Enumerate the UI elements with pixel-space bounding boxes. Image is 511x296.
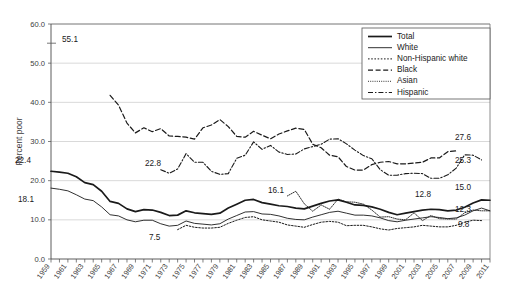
x-tick-label: 1979 xyxy=(204,262,221,281)
data-label-12-3: 12.3 xyxy=(455,205,471,214)
x-tick-label: 1961 xyxy=(52,262,69,281)
x-tick-label: 1991 xyxy=(305,262,322,281)
x-tick-label: 1983 xyxy=(237,262,254,281)
series-line-non-hispanic-white xyxy=(178,217,482,230)
data-label-16-1: 16.1 xyxy=(268,186,284,195)
y-tick-label: 60.0 xyxy=(30,20,45,29)
legend-label-black: Black xyxy=(397,65,418,74)
x-tick-label: 2001 xyxy=(389,262,406,281)
x-tick-label: 1999 xyxy=(373,262,390,281)
y-tick-label: 50.0 xyxy=(30,59,45,68)
data-label-55-1: 55.1 xyxy=(62,35,78,44)
data-label-9-8: 9.8 xyxy=(458,220,470,229)
x-tick-label: 1987 xyxy=(271,262,288,281)
x-tick-label: 1981 xyxy=(221,262,238,281)
y-tick-label: 20.0 xyxy=(30,176,45,185)
legend-label-white: White xyxy=(397,43,418,52)
x-tick-label: 1959 xyxy=(35,262,52,281)
x-tick-label: 2007 xyxy=(440,262,457,281)
data-label-22-8: 22.8 xyxy=(145,159,161,168)
x-tick-label: 1975 xyxy=(170,262,187,281)
x-tick-label: 1977 xyxy=(187,262,204,281)
x-tick-label: 1973 xyxy=(153,262,170,281)
x-tick-label: 1989 xyxy=(288,262,305,281)
data-label-25-3: 25.3 xyxy=(455,156,471,165)
legend-label-asian: Asian xyxy=(397,76,418,85)
x-tick-label: 2005 xyxy=(423,262,440,281)
x-tick-label: 1965 xyxy=(85,262,102,281)
x-tick-label: 1963 xyxy=(69,262,86,281)
data-label-27-6: 27.6 xyxy=(455,133,471,142)
x-tick-label: 1971 xyxy=(136,262,153,281)
x-tick-label: 1997 xyxy=(356,262,373,281)
x-tick-label: 2009 xyxy=(457,262,474,281)
data-label-18-1: 18.1 xyxy=(18,195,34,204)
x-tick-label: 1993 xyxy=(322,262,339,281)
y-tick-label: 40.0 xyxy=(30,98,45,107)
x-tick-label: 2011 xyxy=(474,262,490,280)
y-tick-label: 10.0 xyxy=(30,215,45,224)
data-label-15-0: 15.0 xyxy=(455,183,471,192)
x-tick-label: 1985 xyxy=(254,262,271,281)
series-line-black xyxy=(110,95,456,170)
data-label-12-8: 12.8 xyxy=(415,190,431,199)
x-tick-label: 2003 xyxy=(406,262,423,281)
poverty-rate-chart: 0.010.020.030.040.050.060.0Percent poor1… xyxy=(0,0,511,296)
legend-label-non-hispanic-white: Non-Hispanic white xyxy=(397,54,468,63)
x-tick-label: 1969 xyxy=(119,262,136,281)
legend-label-hispanic: Hispanic xyxy=(397,88,428,97)
data-label-22-4: 22.4 xyxy=(15,156,31,165)
legend-label-total: Total xyxy=(397,32,414,41)
data-label-7-5: 7.5 xyxy=(149,233,161,242)
x-tick-label: 1967 xyxy=(102,262,119,281)
y-tick-label: 30.0 xyxy=(30,137,45,146)
chart-canvas: 0.010.020.030.040.050.060.0Percent poor1… xyxy=(0,0,511,296)
x-tick-label: 1995 xyxy=(339,262,356,281)
